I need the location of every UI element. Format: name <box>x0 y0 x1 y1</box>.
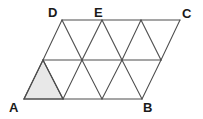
vertex-label-b: B <box>143 101 152 114</box>
diagonal-up-t2 <box>122 20 141 60</box>
vertex-label-e: E <box>94 6 103 19</box>
diagonal-dn-t0 <box>62 20 82 60</box>
diagonal-dn-b1 <box>82 60 102 99</box>
diagonal-dn-t1 <box>102 20 122 60</box>
vertex-label-c: C <box>182 7 191 20</box>
diagonal-up-t3 <box>161 20 180 60</box>
geometry-figure: A B C D E <box>0 0 203 119</box>
diagonal-up-b3 <box>142 60 161 99</box>
diagonal-up-b1 <box>63 60 82 99</box>
diagonal-up-t0 <box>43 20 62 60</box>
shaded-triangle-region <box>24 60 63 99</box>
vertex-label-d: D <box>48 6 57 19</box>
diagonal-dn-t2 <box>141 20 161 60</box>
diagonal-up-t1 <box>82 20 102 60</box>
diagonal-dn-b2 <box>122 60 142 99</box>
diagonal-up-b2 <box>102 60 122 99</box>
vertex-label-a: A <box>9 101 18 114</box>
